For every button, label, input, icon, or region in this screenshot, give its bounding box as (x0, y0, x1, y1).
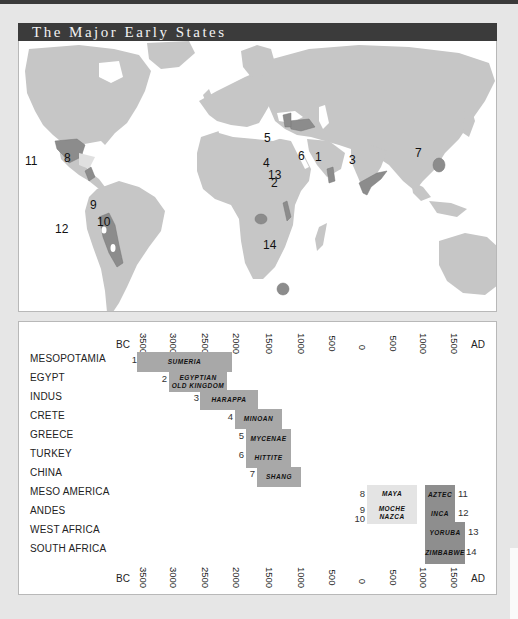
tick-2500-bc-bottom: 2500 (200, 563, 211, 593)
bar-zimbabwe-label: ZIMBABWE (425, 549, 465, 557)
tick-500-ad-bottom: 500 (388, 563, 399, 593)
region-label-greece: GREECE (30, 429, 73, 440)
region-label-china: CHINA (30, 467, 62, 478)
bar-num-5: 5 (236, 430, 244, 441)
map-label-6: 6 (298, 150, 305, 162)
map-label-7: 7 (415, 147, 422, 159)
bar-num-11: 11 (458, 488, 468, 499)
page-title: The Major Early States (18, 23, 497, 41)
region-label-indus: INDUS (30, 391, 62, 402)
bar-yoruba-label: YORUBA (429, 529, 460, 537)
bar-sumeria-label: SUMERIA (168, 358, 201, 366)
map-label-11: 11 (25, 155, 37, 167)
map-label-9: 9 (90, 199, 97, 211)
bar-inca-label: INCA (431, 510, 449, 518)
axis-ad-label-bottom: AD (471, 573, 485, 584)
region-label-west-africa: WEST AFRICA (30, 524, 100, 535)
bar-zimbabwe: ZIMBABWE (425, 543, 465, 563)
bar-num-6: 6 (236, 449, 244, 460)
bar-harappa: HARAPPA (200, 390, 258, 410)
tick-1500-ad-top: 1500 (449, 329, 460, 359)
bar-num-3: 3 (191, 392, 199, 403)
axis-bc-label-bottom: BC (116, 573, 130, 584)
map-label-1: 1 (315, 151, 322, 163)
map-label-3: 3 (349, 154, 356, 166)
tick-500-bc-top: 500 (327, 329, 338, 359)
world-map-graphic (19, 41, 497, 312)
world-map: 1 2 3 4 5 6 7 8 9 10 11 12 13 14 (18, 41, 497, 312)
region-label-south-africa: SOUTH AFRICA (30, 543, 106, 554)
map-label-8: 8 (64, 152, 71, 164)
bar-maya-label: MAYA (382, 490, 402, 498)
bar-aztec: AZTEC (425, 485, 455, 504)
axis-ad-label-top: AD (471, 339, 485, 350)
region-label-meso-america: MESO AMERICA (30, 486, 110, 497)
tick-1500-ad-bottom: 1500 (449, 563, 460, 593)
bar-hittite: HITTITE (246, 448, 291, 468)
tick-1000-bc-bottom: 1000 (296, 563, 307, 593)
tick-1000-ad-top: 1000 (418, 329, 429, 359)
bar-minoan-label: MINOAN (244, 415, 273, 423)
region-label-andes: ANDES (30, 505, 65, 516)
bar-mycenae: MYCENAE (246, 429, 291, 449)
bar-yoruba: YORUBA (425, 523, 465, 543)
axis-bc-label-top: BC (116, 339, 130, 350)
bar-num-14: 14 (466, 546, 477, 557)
tick-3000-bc-bottom: 3000 (168, 563, 179, 593)
region-label-turkey: TURKEY (30, 448, 72, 459)
bar-sumeria: SUMERIA (137, 352, 232, 372)
bar-inca: INCA (425, 504, 455, 523)
bar-aztec-label: AZTEC (428, 491, 452, 499)
tick-2000-bc-top: 2000 (231, 329, 242, 359)
region-label-egypt: EGYPT (30, 372, 65, 383)
bar-num-4: 4 (225, 411, 233, 422)
tick-1000-bc-top: 1000 (296, 329, 307, 359)
tick-1000-ad-bottom: 1000 (418, 563, 429, 593)
bar-mycenae-label: MYCENAE (250, 435, 286, 443)
map-label-13: 13 (268, 169, 281, 181)
bar-egypt-label-line2: OLD KINGDOM (172, 382, 224, 390)
tick-1500-bc-bottom: 1500 (264, 563, 275, 593)
bar-num-13: 13 (468, 526, 479, 537)
map-label-5: 5 (264, 132, 271, 144)
tick-500-ad-top: 500 (388, 329, 399, 359)
bar-minoan: MINOAN (235, 409, 282, 429)
top-border (0, 0, 518, 4)
bar-nazca-label: NAZCA (379, 513, 404, 521)
bar-num-2: 2 (159, 373, 167, 384)
map-label-10: 10 (97, 216, 110, 228)
bar-egypt-label-line1: EGYPTIAN (179, 374, 216, 382)
bar-harappa-label: HARAPPA (211, 396, 246, 404)
bar-num-8: 8 (355, 488, 365, 499)
tick-500-bc-bottom: 500 (327, 563, 338, 593)
region-label-mesopotamia: MESOPOTAMIA (30, 353, 106, 364)
bar-num-12: 12 (458, 507, 469, 518)
map-label-14: 14 (263, 239, 276, 251)
bar-egyptian-old-kingdom: EGYPTIAN OLD KINGDOM (169, 372, 227, 392)
tick-3500-bc-bottom: 3500 (138, 563, 149, 593)
page-edge-panel (510, 548, 518, 619)
bar-num-1: 1 (129, 354, 137, 365)
tick-0-top: 0 (357, 333, 368, 363)
bar-num-7: 7 (247, 468, 255, 479)
tick-2000-bc-bottom: 2000 (231, 563, 242, 593)
map-label-12: 12 (55, 223, 68, 235)
region-label-crete: CRETE (30, 410, 65, 421)
bar-num-10: 10 (351, 513, 365, 524)
tick-0-bottom: 0 (357, 567, 368, 597)
bar-shang-label: SHANG (266, 473, 292, 481)
bar-maya-moche-nazca: MAYA MOCHE NAZCA (367, 485, 417, 524)
bar-shang: SHANG (257, 467, 301, 487)
timeline-chart: BC 3500 3000 2500 2000 1500 1000 500 0 5… (18, 321, 497, 595)
bar-moche-label: MOCHE (379, 505, 406, 513)
bar-hittite-label: HITTITE (254, 454, 282, 462)
tick-1500-bc-top: 1500 (264, 329, 275, 359)
